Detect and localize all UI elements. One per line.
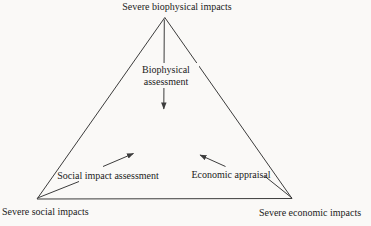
bottom-right-vertex-label: Severe economic impacts — [259, 207, 361, 219]
social-assessment-arrow-head — [103, 154, 134, 167]
social-impact-assessment-label: Social impact assessment — [57, 170, 159, 182]
impact-triangle-diagram: Severe biophysical impacts Severe social… — [0, 0, 371, 226]
bottom-left-vertex-label: Severe social impacts — [2, 206, 89, 218]
economic-appraisal-label: Economic appraisal — [191, 169, 270, 181]
biophysical-assessment-label: Biophysical assessment — [133, 63, 199, 88]
triangle-graphics — [0, 0, 371, 226]
top-vertex-label: Severe biophysical impacts — [122, 1, 231, 13]
economic-appraisal-arrow-head — [200, 155, 226, 167]
